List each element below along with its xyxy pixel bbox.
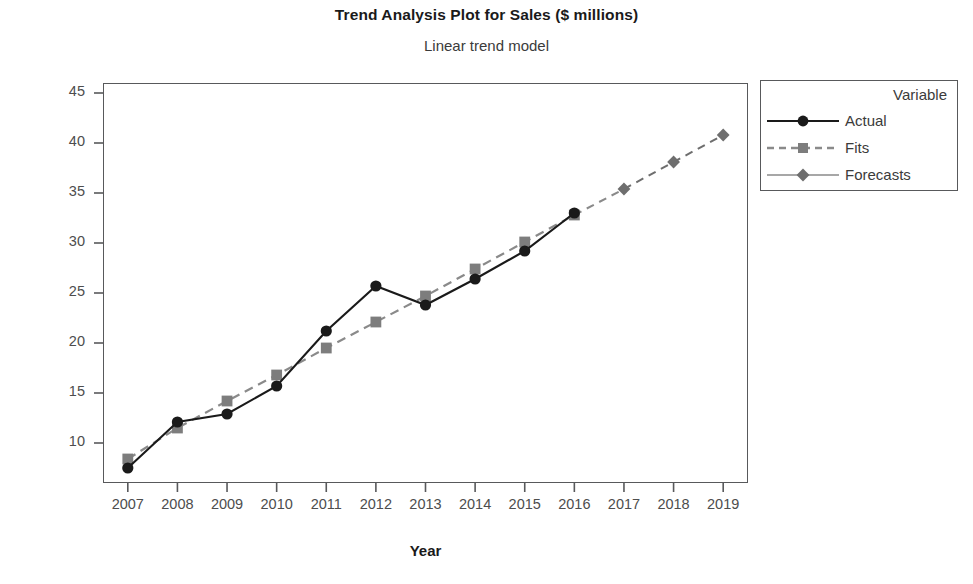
y-tick-label: 30 [33,233,85,249]
legend-swatch-fits-icon [761,136,845,160]
legend-swatch-forecasts-icon [761,163,845,187]
chart-subtitle: Linear trend model [0,37,973,54]
x-axis-title: Year [103,542,748,559]
y-tick-label: 25 [33,283,85,299]
x-tick-label: 2011 [300,496,352,512]
x-tick-label: 2019 [697,496,749,512]
x-tick-label: 2008 [151,496,203,512]
x-tick-label: 2014 [449,496,501,512]
legend-sample-forecasts [761,163,845,187]
x-tick-label: 2018 [648,496,700,512]
legend-title: Variable [761,86,947,103]
plot-area [103,83,748,483]
y-tick-label: 10 [33,433,85,449]
x-tick-label: 2016 [548,496,600,512]
legend-label-fits: Fits [845,136,869,160]
legend-label-forecasts: Forecasts [845,163,911,187]
y-tick-label: 20 [33,333,85,349]
legend-item-actual[interactable]: Actual [761,109,957,133]
legend-swatch-actual-icon [761,109,845,133]
legend-box: Variable Actual Fits [760,80,958,191]
legend-sample-actual [761,109,845,133]
x-tick-label: 2013 [400,496,452,512]
legend-item-fits[interactable]: Fits [761,136,957,160]
x-tick-label: 2009 [201,496,253,512]
x-tick-label: 2015 [499,496,551,512]
chart-title: Trend Analysis Plot for Sales ($ million… [0,6,973,24]
y-tick-label: 45 [33,83,85,99]
legend-item-forecasts[interactable]: Forecasts [761,163,957,187]
y-tick-label: 40 [33,133,85,149]
y-tick-label: 35 [33,183,85,199]
chart-canvas: Trend Analysis Plot for Sales ($ million… [0,0,973,584]
legend-label-actual: Actual [845,109,887,133]
x-tick-label: 2017 [598,496,650,512]
y-tick-label: 15 [33,383,85,399]
legend-sample-fits [761,136,845,160]
x-tick-label: 2010 [251,496,303,512]
x-tick-label: 2012 [350,496,402,512]
x-tick-label: 2007 [102,496,154,512]
